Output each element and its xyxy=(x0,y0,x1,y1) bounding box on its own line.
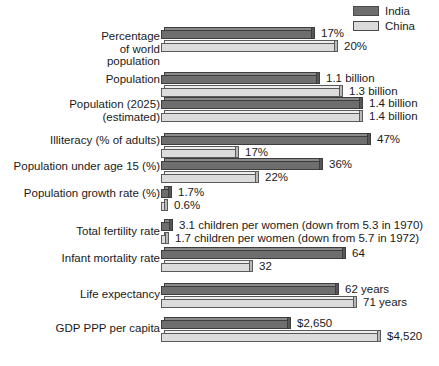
value-label-india: 47% xyxy=(377,133,400,146)
legend-label-china: China xyxy=(385,20,415,32)
bar-end-cap xyxy=(367,133,371,145)
bar-india xyxy=(161,189,169,198)
bar-china xyxy=(161,149,236,158)
bar-end-cap xyxy=(342,247,346,259)
legend-swatch-india xyxy=(353,6,379,16)
bar-india xyxy=(161,136,368,145)
legend-item-india: India xyxy=(353,4,415,17)
value-label-china: 22% xyxy=(265,171,288,184)
bar-end-cap xyxy=(359,97,363,109)
bar-face xyxy=(161,320,288,329)
bar-china xyxy=(161,235,166,244)
bar-top-face xyxy=(164,146,239,149)
bar-india xyxy=(161,286,336,295)
bar-top-face xyxy=(164,27,315,30)
value-label-india: $2,650 xyxy=(297,317,332,330)
bar-china xyxy=(161,174,256,183)
bar-top-face xyxy=(164,330,381,333)
chart-legend: India China xyxy=(353,4,415,32)
bar-end-cap xyxy=(319,158,323,170)
value-label-china: 1.4 billion xyxy=(369,110,418,123)
bar-end-cap xyxy=(359,110,363,122)
bar-india xyxy=(161,100,360,109)
bar-face xyxy=(161,100,360,109)
bar-top-face xyxy=(164,283,339,286)
category-label: Population (2025) (estimated) xyxy=(0,98,160,123)
category-label: Population xyxy=(0,73,160,86)
bar-face xyxy=(161,43,335,52)
bar-top-face xyxy=(164,110,363,113)
bar-china xyxy=(161,333,378,342)
bar-face xyxy=(161,88,340,97)
bar-india xyxy=(161,320,288,329)
bar-end-cap xyxy=(353,296,357,308)
bar-china xyxy=(161,263,250,272)
bar-end-cap xyxy=(255,171,259,183)
category-label: Life expectancy xyxy=(0,288,160,301)
category-label: Total fertility rate xyxy=(0,225,160,238)
bar-end-cap xyxy=(339,85,343,97)
bar-top-face xyxy=(164,260,253,263)
bar-end-cap xyxy=(164,199,168,211)
bar-end-cap xyxy=(334,40,338,52)
bar-end-cap xyxy=(377,330,381,342)
legend-item-china: China xyxy=(353,19,415,32)
bar-top-face xyxy=(164,72,320,75)
value-label-china: 32 xyxy=(259,260,272,273)
bar-top-face xyxy=(164,296,357,299)
bar-face xyxy=(161,250,343,259)
bar-end-cap xyxy=(169,219,173,231)
bar-end-cap xyxy=(335,283,339,295)
bar-china xyxy=(161,88,340,97)
category-label: GDP PPP per capita xyxy=(0,322,160,335)
bar-face xyxy=(161,299,354,308)
category-label: Illiteracy (% of adults) xyxy=(0,134,160,147)
comparison-bar-chart: India China Percentage of world populati… xyxy=(0,0,439,366)
bar-end-cap xyxy=(316,72,320,84)
bar-face xyxy=(161,333,378,342)
bar-face xyxy=(161,30,312,39)
category-label: Population under age 15 (%) xyxy=(0,160,160,173)
value-label-india: 36% xyxy=(329,158,352,171)
bar-china xyxy=(161,202,165,211)
value-label-china: 1.7 children per women (down from 5.7 in… xyxy=(175,232,419,245)
bar-india xyxy=(161,222,170,231)
category-label: Population growth rate (%) xyxy=(0,187,160,200)
value-label-china: 71 years xyxy=(363,296,407,309)
bar-top-face xyxy=(164,133,371,136)
value-label-india: 62 years xyxy=(345,283,389,296)
bar-top-face xyxy=(164,158,323,161)
legend-label-india: India xyxy=(385,5,410,17)
bar-end-cap xyxy=(287,317,291,329)
bar-face xyxy=(161,75,317,84)
bar-india xyxy=(161,30,312,39)
bar-end-cap xyxy=(235,146,239,158)
bar-china xyxy=(161,113,360,122)
bar-china xyxy=(161,299,354,308)
value-label-india: 17% xyxy=(321,27,344,40)
bar-india xyxy=(161,161,320,170)
bar-top-face xyxy=(164,171,259,174)
value-label-china: 20% xyxy=(344,40,367,53)
value-label-china: $4,520 xyxy=(387,330,422,343)
bar-face xyxy=(161,136,368,145)
bar-top-face xyxy=(164,247,346,250)
bar-china xyxy=(161,43,335,52)
value-label-india: 3.1 children per women (down from 5.3 in… xyxy=(179,219,423,232)
bar-end-cap xyxy=(311,27,315,39)
bar-india xyxy=(161,75,317,84)
bar-end-cap xyxy=(168,186,172,198)
legend-swatch-china xyxy=(353,21,379,31)
value-label-china: 0.6% xyxy=(174,199,200,212)
bar-face xyxy=(161,161,320,170)
bar-top-face xyxy=(164,85,343,88)
value-label-india: 1.7% xyxy=(178,186,204,199)
value-label-india: 1.1 billion xyxy=(326,72,375,85)
bar-face xyxy=(161,286,336,295)
bar-india xyxy=(161,250,343,259)
value-label-india: 64 xyxy=(352,247,365,260)
bar-top-face xyxy=(164,40,338,43)
bar-face xyxy=(161,174,256,183)
category-label: Infant mortality rate xyxy=(0,252,160,265)
bar-top-face xyxy=(164,97,363,100)
